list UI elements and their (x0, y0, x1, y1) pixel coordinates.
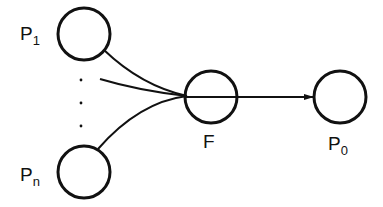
flow-diagram: P1 Pn F P0 (0, 0, 383, 207)
edge-ellipsis-to-f (100, 79, 187, 96)
label-f: F (203, 131, 215, 152)
label-pn: Pn (20, 164, 40, 189)
edge-pn-to-f (98, 96, 187, 149)
node-pn (58, 146, 110, 198)
ellipsis-dot (80, 102, 83, 105)
ellipsis-dot (80, 125, 83, 128)
node-p1 (58, 8, 110, 60)
ellipsis-dot (80, 79, 83, 82)
node-p0 (314, 71, 366, 123)
label-p1: P1 (20, 23, 40, 48)
label-p0: P0 (328, 133, 348, 158)
